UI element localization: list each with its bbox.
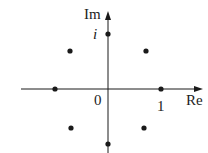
root-point xyxy=(143,48,148,53)
complex-plane xyxy=(0,0,208,153)
root-point xyxy=(52,86,57,91)
imaginary-axis-arrow-icon xyxy=(105,11,111,20)
root-point xyxy=(68,125,73,130)
root-point xyxy=(105,141,110,146)
root-point xyxy=(105,31,110,36)
root-point xyxy=(141,125,146,130)
i-label: i xyxy=(93,27,97,42)
origin-label: 0 xyxy=(94,93,102,108)
root-point xyxy=(158,86,163,91)
root-point xyxy=(67,48,72,53)
real-axis-label: Re xyxy=(186,93,203,108)
imaginary-axis-label: Im xyxy=(84,7,101,22)
one-label: 1 xyxy=(157,99,165,114)
